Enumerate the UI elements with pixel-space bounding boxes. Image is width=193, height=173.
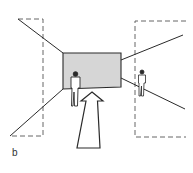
left-dashed-frame bbox=[10, 19, 43, 136]
perspective-diagram bbox=[0, 0, 193, 173]
person-right-icon bbox=[139, 70, 146, 96]
figure-label: b bbox=[12, 147, 18, 158]
direction-arrow-icon bbox=[77, 92, 103, 148]
